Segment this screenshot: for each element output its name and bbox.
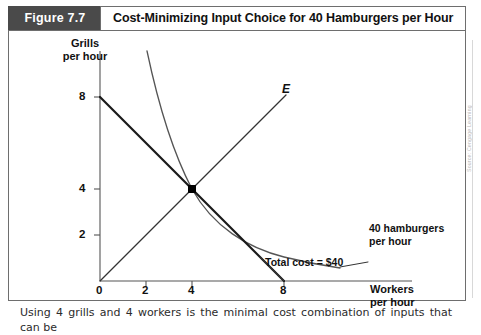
tangency-point-marker	[188, 185, 196, 193]
y-tick-label-4: 4	[79, 182, 85, 195]
isoquant-label-line2: per hour	[369, 235, 444, 248]
x-axis-title: Workers per hour	[370, 283, 415, 308]
isoquant-label-line1: 40 hamburgers	[369, 222, 444, 235]
figure-title: Cost-Minimizing Input Choice for 40 Hamb…	[101, 6, 466, 30]
chart-plot-area: Grills per hour 8 4 2 0 2 4 8 Workers pe…	[8, 31, 466, 301]
y-axis-title-line2: per hour	[53, 50, 117, 63]
y-axis-title: Grills per hour	[53, 37, 117, 62]
expansion-path-label: E	[282, 83, 290, 97]
source-credit-vertical: Source: Cengage Learning	[466, 52, 480, 172]
y-tick-label-0: 0	[96, 284, 102, 297]
chart-svg	[8, 31, 466, 301]
figure-title-bar: Figure 7.7 Cost-Minimizing Input Choice …	[8, 6, 466, 30]
figure-caption: Using 4 grills and 4 workers is the mini…	[20, 306, 452, 335]
isocost-label: Total cost = $40	[265, 256, 343, 268]
x-axis-title-line1: Workers	[370, 283, 415, 296]
isoquant-curve	[147, 51, 340, 268]
x-tick-label-8: 8	[280, 284, 286, 297]
x-tick-label-4: 4	[188, 284, 194, 297]
isoquant-leader-line	[340, 262, 368, 267]
isoquant-label: 40 hamburgers per hour	[369, 222, 444, 247]
y-tick-label-2: 2	[79, 228, 85, 241]
y-axis-title-line1: Grills	[53, 37, 117, 50]
y-tick-label-8: 8	[79, 90, 85, 103]
figure-number-badge: Figure 7.7	[8, 6, 100, 30]
x-tick-label-2: 2	[142, 284, 148, 297]
